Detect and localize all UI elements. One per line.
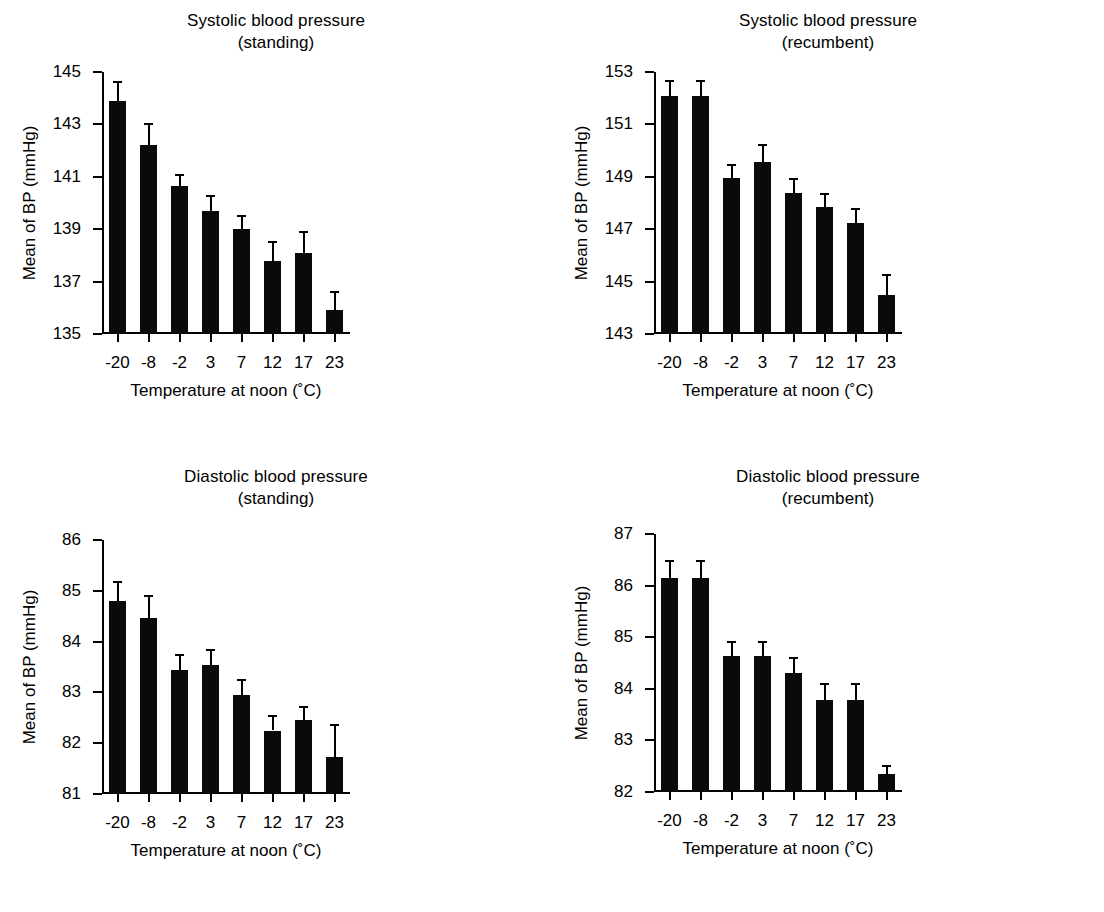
y-axis-tick-label: 145 xyxy=(605,272,633,292)
error-bar-stem xyxy=(334,724,336,757)
y-axis-tick: 143 xyxy=(93,123,102,125)
bar xyxy=(171,670,188,794)
y-axis-tick: 85 xyxy=(93,590,102,592)
y-axis-tick-label: 137 xyxy=(53,272,81,292)
error-bar-stem xyxy=(117,581,119,601)
bar xyxy=(816,207,833,334)
y-axis-tick-label: 86 xyxy=(614,576,633,596)
error-bar-cap xyxy=(758,641,767,643)
bar xyxy=(295,253,312,334)
bar xyxy=(109,601,126,794)
error-bar-stem xyxy=(762,641,764,656)
x-axis-label: Temperature at noon (˚C) xyxy=(654,839,902,859)
bar xyxy=(295,720,312,794)
error-bar-cap xyxy=(851,208,860,210)
bar xyxy=(202,211,219,334)
y-axis-tick-label: 153 xyxy=(605,62,633,82)
plot-area: 135137139141143145-20-8-237121723 xyxy=(102,72,350,334)
x-axis-tick-label: -20 xyxy=(105,813,130,833)
x-axis-tick-label: -2 xyxy=(172,813,187,833)
x-axis-tick-label: -20 xyxy=(657,353,682,373)
x-axis-tick: -20 xyxy=(117,334,119,342)
y-axis-label: Mean of BP (mmHg) xyxy=(572,534,592,792)
error-bar-stem xyxy=(210,649,212,665)
error-bar-cap xyxy=(144,123,153,125)
error-bar-stem xyxy=(272,715,274,730)
error-bar-stem xyxy=(824,193,826,207)
error-bar-cap xyxy=(851,683,860,685)
x-axis-tick: 7 xyxy=(793,334,795,342)
y-axis-tick: 149 xyxy=(645,176,654,178)
chart-panel-systolic-recumbent: Systolic blood pressure(recumbent)143145… xyxy=(552,0,1104,456)
chart-title-subtitle: (recumbent) xyxy=(552,488,1104,510)
bar xyxy=(816,700,833,792)
x-axis-tick-label: -8 xyxy=(141,813,156,833)
error-bar-cap xyxy=(268,715,277,717)
x-axis-tick: -8 xyxy=(700,792,702,800)
x-axis-tick-label: -20 xyxy=(105,353,130,373)
y-axis-line xyxy=(102,540,104,794)
error-bar-stem xyxy=(793,178,795,192)
chart-panel-diastolic-standing: Diastolic blood pressure(standing)818283… xyxy=(0,456,552,912)
y-axis-tick-label: 145 xyxy=(53,62,81,82)
x-axis-tick: -8 xyxy=(700,334,702,342)
bar xyxy=(233,229,250,334)
error-bar-cap xyxy=(206,195,215,197)
y-axis-label: Mean of BP (mmHg) xyxy=(20,540,40,794)
x-axis-tick: -8 xyxy=(148,334,150,342)
y-axis-tick: 87 xyxy=(645,533,654,535)
y-axis-tick: 145 xyxy=(645,281,654,283)
y-axis-tick-label: 81 xyxy=(62,784,81,804)
y-axis-tick: 86 xyxy=(93,539,102,541)
y-axis-line xyxy=(654,534,656,792)
y-axis-tick-label: 143 xyxy=(605,324,633,344)
x-axis-tick-label: 7 xyxy=(237,353,246,373)
x-axis-tick: 17 xyxy=(855,792,857,800)
error-bar-cap xyxy=(665,560,674,562)
chart-title-main: Diastolic blood pressure xyxy=(0,466,552,488)
y-axis-tick: 153 xyxy=(645,71,654,73)
chart-title: Diastolic blood pressure(recumbent) xyxy=(552,466,1104,510)
x-axis-tick-label: 23 xyxy=(325,813,344,833)
y-axis-tick: 86 xyxy=(645,585,654,587)
x-axis-tick: 23 xyxy=(886,792,888,800)
x-axis-tick-label: -8 xyxy=(693,811,708,831)
x-axis-tick-label: 3 xyxy=(206,813,215,833)
error-bar-cap xyxy=(144,595,153,597)
chart-title-subtitle: (standing) xyxy=(0,32,552,54)
x-axis-tick-label: -8 xyxy=(141,353,156,373)
error-bar-stem xyxy=(303,706,305,720)
bar xyxy=(692,578,709,792)
x-axis-tick-label: 7 xyxy=(789,811,798,831)
x-axis-tick: 17 xyxy=(303,334,305,342)
x-axis-tick-label: 17 xyxy=(294,813,313,833)
y-axis-label: Mean of BP (mmHg) xyxy=(572,72,592,334)
y-axis-tick: 145 xyxy=(93,71,102,73)
bar xyxy=(878,295,895,334)
error-bar-cap xyxy=(237,679,246,681)
error-bar-cap xyxy=(268,241,277,243)
y-axis-tick: 139 xyxy=(93,228,102,230)
x-axis-tick: 12 xyxy=(824,334,826,342)
bar xyxy=(661,96,678,334)
y-axis-tick: 141 xyxy=(93,176,102,178)
bar xyxy=(264,731,281,795)
x-axis-tick: -2 xyxy=(731,792,733,800)
x-axis-tick-label: -2 xyxy=(172,353,187,373)
y-axis-tick: 82 xyxy=(93,742,102,744)
x-axis-label: Temperature at noon (˚C) xyxy=(102,841,350,861)
bar xyxy=(754,162,771,334)
error-bar-cap xyxy=(113,81,122,83)
y-axis-tick-label: 84 xyxy=(62,632,81,652)
chart-title-main: Systolic blood pressure xyxy=(0,10,552,32)
error-bar-stem xyxy=(886,274,888,295)
error-bar-cap xyxy=(175,174,184,176)
error-bar-cap xyxy=(330,724,339,726)
error-bar-stem xyxy=(148,595,150,618)
y-axis-tick-label: 82 xyxy=(62,733,81,753)
x-axis-tick: 17 xyxy=(855,334,857,342)
x-axis-tick: 23 xyxy=(886,334,888,342)
x-axis-tick: 23 xyxy=(334,794,336,802)
error-bar-cap xyxy=(727,641,736,643)
y-axis-label: Mean of BP (mmHg) xyxy=(20,72,40,334)
